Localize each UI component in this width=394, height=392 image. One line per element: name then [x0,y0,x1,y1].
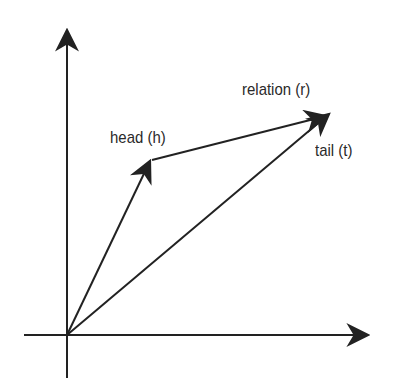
tail-vector [67,114,329,335]
tail-label: tail (t) [315,141,352,161]
head-vector [67,161,150,335]
head-label: head (h) [110,128,166,148]
diagram-canvas: head (h) relation (r) tail (t) [0,0,394,392]
vector-diagram [0,0,394,392]
relation-label: relation (r) [242,80,310,100]
